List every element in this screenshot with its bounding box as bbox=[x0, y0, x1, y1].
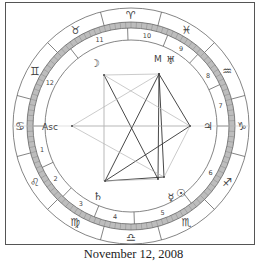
house-number-6: 6 bbox=[209, 169, 213, 177]
house-cusp bbox=[63, 188, 71, 197]
aspect-line bbox=[164, 126, 190, 177]
planet-jupiter-icon: ♃ bbox=[203, 120, 213, 133]
sign-boundary bbox=[231, 153, 245, 157]
planet-dot bbox=[157, 178, 159, 180]
planet-mars-icon: M bbox=[154, 54, 162, 64]
sign-boundary bbox=[158, 226, 162, 240]
sign-boundary bbox=[100, 226, 104, 240]
sign-boundary bbox=[48, 43, 58, 53]
sign-boundary bbox=[48, 200, 58, 210]
sign-boundary bbox=[158, 12, 162, 26]
house-cusp bbox=[190, 54, 198, 63]
sign-aries-icon: ♈ bbox=[126, 9, 136, 22]
house-cusp bbox=[42, 162, 53, 167]
sign-scorpio-icon: ♏ bbox=[182, 216, 192, 229]
house-number-3: 3 bbox=[79, 200, 83, 208]
planet-ascendant-icon: Asc bbox=[42, 122, 58, 132]
astrology-wheel: ♈♉♊♋♌♍♎♏♐♑♒♓123456789101112Asc☽M♅♃♄☿☉ bbox=[0, 0, 267, 266]
sign-boundary bbox=[17, 95, 31, 99]
house-number-9: 9 bbox=[179, 45, 183, 53]
house-cusp bbox=[209, 85, 220, 90]
sign-taurus-icon: ♉ bbox=[71, 24, 81, 37]
planet-mercury-icon: ☿ bbox=[168, 191, 175, 204]
sign-capricorn-icon: ♑ bbox=[237, 120, 247, 133]
planet-saturn-icon: ♄ bbox=[93, 190, 103, 203]
house-cusp bbox=[94, 206, 98, 217]
sign-cancer-icon: ♋ bbox=[15, 120, 25, 133]
sign-pisces-icon: ♓ bbox=[182, 24, 192, 37]
sign-boundary bbox=[205, 200, 215, 210]
sign-virgo-icon: ♍ bbox=[71, 216, 81, 229]
house-number-12: 12 bbox=[46, 79, 54, 87]
aspect-line bbox=[104, 74, 159, 75]
house-number-11: 11 bbox=[95, 36, 103, 44]
planet-dot bbox=[103, 74, 105, 76]
planet-dot bbox=[163, 176, 165, 178]
sign-libra-icon: ♎ bbox=[126, 231, 136, 244]
house-number-7: 7 bbox=[219, 102, 223, 110]
house-cusp bbox=[163, 35, 167, 46]
house-number-5: 5 bbox=[160, 209, 164, 217]
house-cusp bbox=[71, 49, 78, 58]
planet-sun-icon: ☉ bbox=[176, 187, 186, 200]
sign-sagittarius-icon: ♐ bbox=[222, 176, 232, 189]
house-number-1: 1 bbox=[40, 146, 44, 154]
aspect-line bbox=[159, 74, 190, 126]
sign-boundary bbox=[205, 43, 215, 53]
sign-leo-icon: ♌ bbox=[30, 176, 40, 189]
aspect-line bbox=[159, 74, 164, 177]
house-number-4: 4 bbox=[113, 213, 117, 221]
house-number-10: 10 bbox=[143, 32, 151, 40]
planet-moon-icon: ☽ bbox=[90, 57, 100, 70]
chart-date-caption: November 12, 2008 bbox=[0, 247, 267, 262]
sign-aquarius-icon: ♒ bbox=[222, 65, 232, 78]
sign-boundary bbox=[17, 153, 31, 157]
planet-dot bbox=[104, 180, 106, 182]
planet-dot bbox=[189, 125, 191, 127]
sign-boundary bbox=[231, 95, 245, 99]
house-number-2: 2 bbox=[54, 175, 58, 183]
planet-dot bbox=[158, 73, 160, 75]
planet-uranus-icon: ♅ bbox=[166, 54, 176, 67]
sign-gemini-icon: ♊ bbox=[30, 65, 40, 78]
aspect-line bbox=[105, 126, 190, 181]
sign-boundary bbox=[100, 12, 104, 26]
planet-dot bbox=[71, 125, 73, 127]
aspect-line bbox=[158, 74, 159, 179]
house-number-8: 8 bbox=[206, 72, 210, 80]
